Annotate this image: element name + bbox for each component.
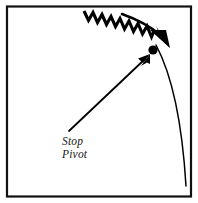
figure-panel: Stop Pivot [0, 0, 198, 203]
stop-label: Stop [62, 135, 83, 148]
pivot-point-dot [148, 45, 157, 54]
figure-canvas: Stop Pivot [0, 0, 198, 203]
pivot-label: Pivot [61, 148, 88, 160]
